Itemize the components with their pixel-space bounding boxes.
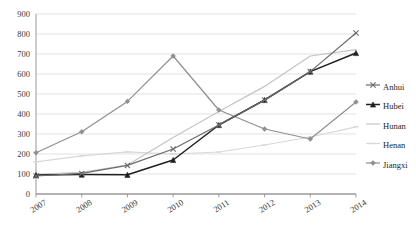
chart-canvas: 0100200300400500600700800900200720082009… <box>0 0 416 228</box>
x-axis-tick-label: 2013 <box>303 197 323 214</box>
x-axis-tick-label: 2011 <box>211 197 230 214</box>
y-axis-tick-label: 800 <box>17 29 30 39</box>
y-axis-tick-label: 100 <box>17 169 30 179</box>
x-axis-tick-label: 2012 <box>257 197 277 214</box>
y-axis-tick-label: 0 <box>26 189 30 199</box>
legend-item-henan[interactable]: Henan <box>366 140 406 150</box>
y-axis-tick-label: 500 <box>17 89 30 99</box>
series-jiangxi <box>34 54 359 156</box>
legend-item-jiangxi[interactable]: Jiangxi <box>366 160 408 170</box>
y-axis-tick-label: 900 <box>17 9 30 19</box>
line-chart: 0100200300400500600700800900200720082009… <box>0 0 416 228</box>
y-axis-tick-label: 700 <box>17 49 30 59</box>
y-axis-tick-labels: 0100200300400500600700800900 <box>17 9 30 199</box>
x-axis-tick-label: 2008 <box>74 197 94 214</box>
x-axis-tick-label: 2009 <box>120 197 140 214</box>
data-point-marker <box>262 127 267 132</box>
x-axis-tick-labels: 20072008200920102011201220132014 <box>28 197 368 215</box>
legend-label: Henan <box>383 140 406 150</box>
series-line <box>36 33 356 176</box>
y-axis-tick-label: 600 <box>17 69 30 79</box>
series-line <box>36 56 356 153</box>
legend-item-hubei[interactable]: Hubei <box>366 101 404 111</box>
x-axis-tick-label: 2010 <box>165 197 185 214</box>
data-point-marker <box>34 150 39 155</box>
legend-label: Jiangxi <box>383 160 408 170</box>
y-axis-tick-label: 400 <box>17 109 30 119</box>
legend-label: Hubei <box>383 101 404 111</box>
axes <box>36 14 356 198</box>
legend-label: Hunan <box>383 121 406 131</box>
legend-item-hunan[interactable]: Hunan <box>366 121 406 131</box>
y-axis-tick-label: 300 <box>17 129 30 139</box>
legend-item-anhui[interactable]: Anhui <box>366 82 405 92</box>
legend-label: Anhui <box>383 82 405 92</box>
x-axis-tick-label: 2007 <box>28 197 48 214</box>
legend: AnhuiHubeiHunanHenanJiangxi <box>366 82 408 170</box>
x-axis-tick-label: 2014 <box>348 197 368 215</box>
y-axis-tick-label: 200 <box>17 149 30 159</box>
gridlines <box>36 14 356 194</box>
data-point-marker <box>371 161 376 166</box>
chart-plot-area: 0100200300400500600700800900200720082009… <box>0 0 416 228</box>
